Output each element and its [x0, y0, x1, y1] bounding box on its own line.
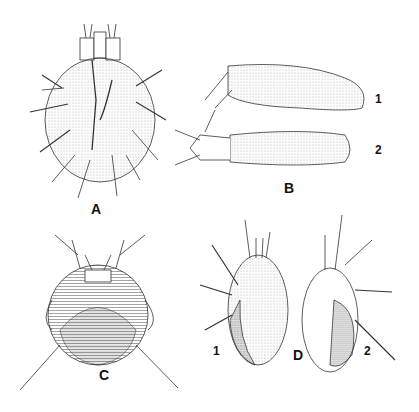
panel-label-b: B [284, 180, 294, 196]
mite-b [175, 65, 364, 166]
panel-b-sublabel-2: 2 [375, 143, 382, 157]
panel-b-sublabel-1: 1 [375, 92, 382, 106]
figure-drawing [0, 0, 419, 412]
panel-label-d: D [293, 347, 303, 363]
panel-label-a: A [91, 201, 101, 217]
panel-d-sublabel-2: 2 [364, 344, 371, 358]
panel-d-sublabel-1: 1 [213, 344, 220, 358]
panel-label-c: C [99, 367, 109, 383]
mite-d2 [302, 215, 395, 372]
mite-a [30, 24, 166, 198]
